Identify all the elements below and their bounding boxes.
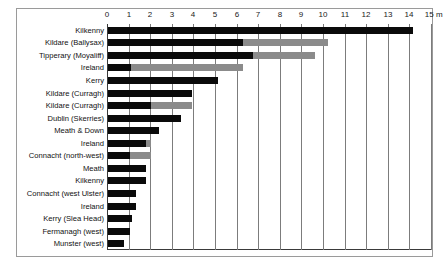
x-tick-label: 13 [384,9,393,21]
category-label: Tipperary (Moyaliff) [39,50,104,61]
bar-row [108,177,433,184]
bar-segment-primary [108,102,151,109]
bar-row [108,140,433,147]
bar-segment-secondary [146,140,151,147]
bar-segment-primary [108,64,131,71]
bar-segment-primary [108,77,218,84]
category-label: Kilkenny [75,175,104,186]
bar-segment-primary [108,90,192,97]
x-tick-label: 10 [319,9,328,21]
bar-row [108,64,433,71]
bar-segment-primary [108,203,136,210]
category-label: Meath [83,163,104,174]
category-label: Kilkenny [75,25,104,36]
bar-segment-primary [108,127,159,134]
category-label: Fermanagh (west) [42,226,104,237]
x-tick-label: 3 [170,9,174,21]
bar-segment-primary [108,228,130,235]
x-tick-label: 14 [405,9,414,21]
bar-segment-primary [108,177,146,184]
bar-row [108,127,433,134]
bar-row [108,115,433,122]
category-label: Ireland [81,201,104,212]
category-label: Ireland [81,62,104,73]
bar-row [108,52,433,59]
x-tick-label: 5 [213,9,217,21]
category-label: Kerry [86,75,104,86]
bar-row [108,77,433,84]
bar-row [108,228,433,235]
x-tick-label: 15 m [425,9,443,21]
bar-segment-primary [108,165,146,172]
bar-row [108,165,433,172]
category-label: Kildare (Curragh) [46,100,104,111]
x-tick-label: 9 [299,9,303,21]
x-tick-label: 6 [235,9,239,21]
bar-segment-primary [108,240,124,247]
bar-segment-primary [108,39,243,46]
category-label: Meath & Down [54,125,104,136]
bar-row [108,102,433,109]
x-tick-label: 8 [278,9,282,21]
category-label: Connacht (west Ulster) [27,188,104,199]
bar-segment-primary [108,52,253,59]
bar-row [108,190,433,197]
category-label: Dublin (Skerries) [47,113,104,124]
axis-bottom-edge [107,249,432,250]
bar-segment-primary [108,27,413,34]
plot-area [107,24,432,250]
bar-segment-primary [108,140,146,147]
bar-segment-primary [108,115,181,122]
x-tick-label: 12 [362,9,371,21]
bar-segment-secondary [253,52,316,59]
x-tick-label: 1 [127,9,131,21]
x-axis-tick-labels: 0123456789101112131415 m [91,9,432,25]
category-label: Kildare (Ballysax) [45,37,104,48]
bar-segment-secondary [243,39,328,46]
bar-row [108,39,433,46]
y-axis-category-labels: KilkennyKildare (Ballysax)Tipperary (Moy… [20,24,106,250]
bar-row [108,152,433,159]
x-tick-label: 7 [256,9,260,21]
bar-segment-primary [108,190,136,197]
bar-row [108,90,433,97]
bar-row [108,203,433,210]
bar-segment-secondary [131,64,243,71]
category-label: Kildare (Curragh) [46,88,104,99]
x-tick-label: 4 [191,9,195,21]
category-label: Connacht (north-west) [29,150,104,161]
bar-row [108,27,433,34]
bar-segment-primary [108,152,130,159]
category-label: Kerry (Slea Head) [43,213,104,224]
category-label: Munster (west) [54,238,104,249]
bar-segment-secondary [151,102,192,109]
bar-segment-secondary [130,152,152,159]
category-label: Ireland [81,138,104,149]
bar-segment-primary [108,215,132,222]
x-tick-label: 11 [341,9,349,21]
x-tick-label: 0 [105,9,109,21]
x-tick-label: 2 [148,9,152,21]
bar-row [108,215,433,222]
bar-row [108,240,433,247]
